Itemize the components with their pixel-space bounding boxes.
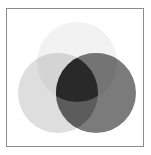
venn-diagram-figure [0, 0, 151, 155]
venn-diagram-canvas [0, 0, 151, 155]
venn-set-group [18, 22, 136, 133]
